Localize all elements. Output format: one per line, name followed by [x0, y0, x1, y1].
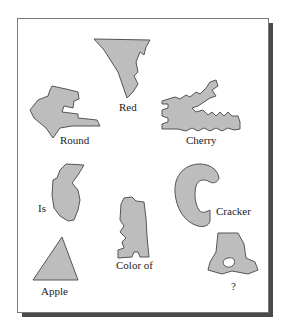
shape-cherry: [162, 80, 240, 131]
label-question: ?: [231, 280, 236, 292]
puzzle-shapes: [0, 0, 287, 332]
label-color-of: Color of: [116, 259, 153, 271]
label-cherry: Cherry: [186, 134, 217, 146]
shape-color-of: [118, 197, 149, 258]
shape-round: [30, 86, 100, 138]
label-round: Round: [60, 134, 89, 146]
shape-red: [94, 39, 150, 98]
shape-cracker: [175, 164, 219, 227]
shape-is: [52, 164, 84, 221]
shape-apple: [33, 237, 78, 280]
label-cracker: Cracker: [216, 205, 251, 217]
label-is: Is: [38, 202, 46, 214]
shape-question: [208, 233, 258, 274]
label-red: Red: [119, 101, 137, 113]
label-apple: Apple: [41, 285, 68, 297]
